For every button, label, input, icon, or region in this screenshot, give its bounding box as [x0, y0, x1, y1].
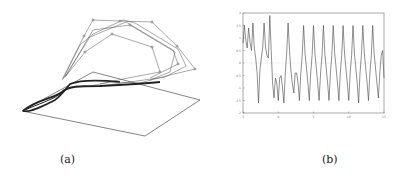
svg-text:-1: -1 [238, 86, 241, 90]
panel-b-time-series: 21.510.50-0.5-1-1.5-2 -5051015 [225, 5, 395, 125]
panel-a-3d-trajectory [0, 0, 200, 150]
svg-text:0: 0 [277, 115, 279, 119]
control-points [83, 19, 196, 73]
trajectory-figure [0, 0, 200, 150]
svg-text:10: 10 [347, 115, 351, 119]
svg-text:15: 15 [382, 115, 386, 119]
time-series-chart: 21.510.50-0.5-1-1.5-2 -5051015 [225, 5, 395, 125]
svg-text:0: 0 [239, 61, 241, 65]
caption-b: (b) [322, 153, 338, 166]
svg-text:-1.5: -1.5 [235, 99, 241, 103]
svg-text:1: 1 [239, 36, 241, 40]
svg-text:-0.5: -0.5 [235, 74, 241, 78]
x-ticks: -5051015 [242, 112, 386, 120]
trajectory-loop [23, 81, 160, 112]
svg-text:1.5: 1.5 [236, 24, 241, 28]
signal-line [243, 16, 384, 104]
caption-a: (a) [60, 153, 75, 166]
svg-text:2: 2 [239, 11, 241, 15]
svg-text:-5: -5 [242, 115, 245, 119]
svg-text:5: 5 [313, 115, 315, 119]
control-polygons [62, 20, 195, 86]
svg-text:0.5: 0.5 [236, 49, 241, 53]
